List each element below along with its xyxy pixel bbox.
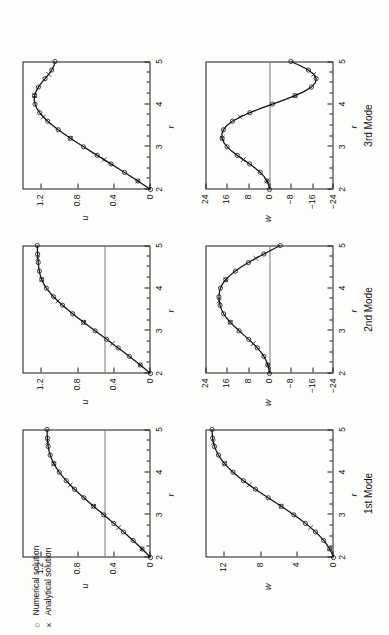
mode-label-3: 3rd Mode bbox=[363, 104, 373, 146]
analytical-marker bbox=[311, 72, 316, 77]
y-axis-label: u bbox=[80, 583, 89, 588]
y-tick-label: 12 bbox=[219, 562, 228, 588]
y-tick-label: 1.2 bbox=[36, 562, 45, 588]
x-tick-label: 2 bbox=[154, 555, 163, 560]
x-tick-label: 4 bbox=[154, 101, 163, 106]
y-tick-label: 8 bbox=[243, 378, 252, 404]
x-tick-label: 5 bbox=[154, 59, 163, 64]
analytical-marker bbox=[55, 298, 60, 303]
x-axis-label: r bbox=[166, 125, 175, 128]
x-axis-label: r bbox=[349, 125, 358, 128]
data-curve bbox=[37, 245, 150, 373]
y-tick-label: −8 bbox=[286, 194, 295, 220]
y-tick-label: 0 bbox=[329, 562, 338, 588]
data-curve bbox=[221, 61, 315, 189]
y-tick-label: 0 bbox=[146, 378, 155, 404]
analytical-marker bbox=[41, 114, 46, 119]
plot-panel-mode1-u: 234500.40.81.2ru bbox=[22, 429, 184, 557]
x-tick-label: 2 bbox=[337, 555, 346, 560]
mode-shape-figure: ○ Numerical solution × Analytical soluti… bbox=[0, 0, 389, 635]
y-tick-label: 0 bbox=[146, 562, 155, 588]
y-axis-label: u bbox=[80, 399, 89, 404]
x-tick-label: 3 bbox=[154, 328, 163, 333]
x-tick-label: 5 bbox=[337, 427, 346, 432]
analytical-marker bbox=[308, 525, 313, 530]
x-tick-label: 2 bbox=[337, 187, 346, 192]
analytical-marker bbox=[67, 482, 72, 487]
analytical-marker bbox=[250, 341, 255, 346]
mode-label-2: 2nd Mode bbox=[363, 287, 373, 331]
y-tick-label: 1.2 bbox=[36, 194, 45, 220]
x-tick-label: 3 bbox=[337, 512, 346, 517]
mode-label-1: 1st Mode bbox=[363, 472, 373, 513]
series-plot bbox=[205, 429, 333, 557]
plot-panel-mode1-w: 234504812rw bbox=[205, 429, 367, 557]
x-tick-label: 4 bbox=[154, 469, 163, 474]
plot-panel-mode3-w: 2345−24−16−8081624rw bbox=[205, 61, 367, 189]
x-tick-label: 3 bbox=[154, 144, 163, 149]
y-tick-label: −24 bbox=[329, 378, 338, 404]
y-tick-label: 24 bbox=[201, 378, 210, 404]
x-tick-label: 4 bbox=[337, 285, 346, 290]
x-tick-label: 4 bbox=[154, 285, 163, 290]
plot-panel-mode2-w: 2345−24−16−8081624rw bbox=[205, 245, 367, 373]
x-tick-label: 5 bbox=[154, 243, 163, 248]
x-axis-label: r bbox=[349, 309, 358, 312]
x-axis-label: r bbox=[166, 309, 175, 312]
cross-marker-icon: × bbox=[42, 620, 54, 629]
plot-panel-mode2-u: 234500.40.81.2ru bbox=[22, 245, 184, 373]
plot-panel-mode3-u: 234500.40.81.2ru bbox=[22, 61, 184, 189]
y-axis-label: u bbox=[80, 215, 89, 220]
y-tick-label: 16 bbox=[222, 194, 231, 220]
y-tick-label: 1.2 bbox=[36, 378, 45, 404]
analytical-marker bbox=[101, 157, 106, 162]
y-tick-label: −8 bbox=[286, 378, 295, 404]
x-tick-label: 5 bbox=[337, 59, 346, 64]
circle-marker-icon: ○ bbox=[30, 620, 42, 629]
x-tick-label: 3 bbox=[337, 144, 346, 149]
x-tick-label: 3 bbox=[154, 512, 163, 517]
y-tick-label: 0.4 bbox=[109, 194, 118, 220]
y-tick-label: 0 bbox=[146, 194, 155, 220]
series-plot bbox=[22, 245, 150, 373]
data-curve bbox=[47, 429, 150, 557]
analytical-marker bbox=[246, 482, 251, 487]
y-tick-label: 4 bbox=[292, 562, 301, 588]
x-tick-label: 3 bbox=[337, 328, 346, 333]
series-plot bbox=[22, 61, 150, 189]
x-axis-label: r bbox=[166, 493, 175, 496]
x-axis-label: r bbox=[349, 493, 358, 496]
analytical-marker bbox=[116, 525, 121, 530]
series-plot bbox=[205, 61, 333, 189]
y-tick-label: −16 bbox=[307, 194, 316, 220]
data-curve bbox=[212, 429, 333, 557]
y-axis-label: w bbox=[263, 215, 272, 222]
x-tick-label: 2 bbox=[337, 371, 346, 376]
x-tick-label: 4 bbox=[337, 101, 346, 106]
y-tick-label: −16 bbox=[307, 378, 316, 404]
x-tick-label: 4 bbox=[337, 469, 346, 474]
series-plot bbox=[22, 429, 150, 557]
y-tick-label: 16 bbox=[222, 378, 231, 404]
figure-rotation-wrapper: ○ Numerical solution × Analytical soluti… bbox=[0, 0, 389, 635]
numerical-marker bbox=[278, 243, 282, 247]
y-tick-label: −24 bbox=[329, 194, 338, 220]
y-tick-label: 24 bbox=[201, 194, 210, 220]
analytical-marker bbox=[110, 341, 115, 346]
y-tick-label: 0.4 bbox=[109, 378, 118, 404]
y-tick-label: 8 bbox=[243, 194, 252, 220]
y-axis-label: w bbox=[263, 583, 272, 590]
x-tick-label: 5 bbox=[337, 243, 346, 248]
y-axis-label: w bbox=[263, 399, 272, 406]
x-tick-label: 5 bbox=[154, 427, 163, 432]
series-plot bbox=[205, 245, 333, 373]
data-curve bbox=[34, 61, 150, 189]
y-tick-label: 0.4 bbox=[109, 562, 118, 588]
x-tick-label: 2 bbox=[154, 371, 163, 376]
analytical-marker bbox=[241, 157, 246, 162]
x-tick-label: 2 bbox=[154, 187, 163, 192]
